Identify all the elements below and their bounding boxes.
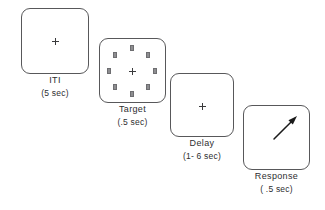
target-square xyxy=(130,45,134,51)
phase-name-label: ITI xyxy=(21,76,89,86)
panel-caption-target: Target(.5 sec) xyxy=(99,105,166,127)
panel-caption-iti: ITI(5 sec) xyxy=(21,76,89,98)
fixation-cross-icon xyxy=(129,68,136,75)
target-square xyxy=(153,68,157,74)
stimulus-screen-response xyxy=(243,105,310,170)
phase-name-label: Target xyxy=(99,105,166,115)
fixation-cross-icon xyxy=(199,103,206,110)
phase-name-label: Delay xyxy=(170,139,234,149)
fixation-cross-icon xyxy=(52,38,59,45)
panel-caption-response: Response( .5 sec) xyxy=(243,172,310,194)
target-square xyxy=(113,84,117,90)
target-square xyxy=(107,68,111,74)
target-square xyxy=(146,52,150,58)
phase-duration-label: ( .5 sec) xyxy=(243,185,310,194)
target-square xyxy=(146,84,150,90)
target-square xyxy=(113,52,117,58)
panel-caption-delay: Delay(1- 6 sec) xyxy=(170,139,234,161)
phase-name-label: Response xyxy=(243,172,310,182)
phase-duration-label: (5 sec) xyxy=(21,89,89,98)
trial-sequence-figure: ITI(5 sec)Target(.5 sec)Delay(1- 6 sec)R… xyxy=(0,0,325,210)
target-square xyxy=(130,91,134,97)
phase-duration-label: (1- 6 sec) xyxy=(170,152,234,161)
phase-duration-label: (.5 sec) xyxy=(99,118,166,127)
